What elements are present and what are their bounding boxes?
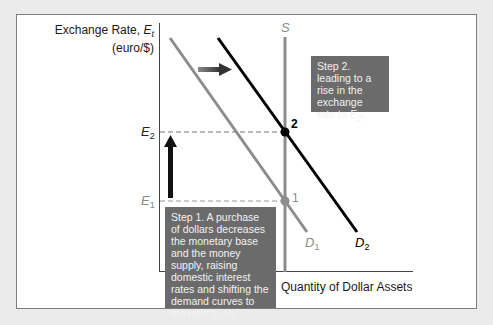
tick-e2: E2 [141, 124, 155, 141]
y-axis-title: Exchange Rate, Et (euro/$) [55, 23, 154, 55]
tick-e1: E1 [141, 193, 155, 210]
supply-label: S [281, 20, 290, 35]
equilibrium-point-2 [281, 128, 290, 137]
equilibrium-point-1 [281, 197, 290, 206]
d2-label: D2 [355, 235, 369, 252]
d1-label: D1 [305, 235, 319, 252]
point-1-label: 1 [292, 191, 299, 205]
step1-callout: Step 1. A purchase of dollars decreases … [165, 207, 276, 308]
demand-shift-arrow-icon [198, 63, 232, 76]
step2-callout: Step 2. leading to a rise in the exchang… [311, 56, 389, 112]
exchange-rate-rise-arrow-icon [164, 135, 177, 198]
point-2-label: 2 [291, 117, 298, 131]
x-axis-title: Quantity of Dollar Assets [281, 280, 412, 294]
